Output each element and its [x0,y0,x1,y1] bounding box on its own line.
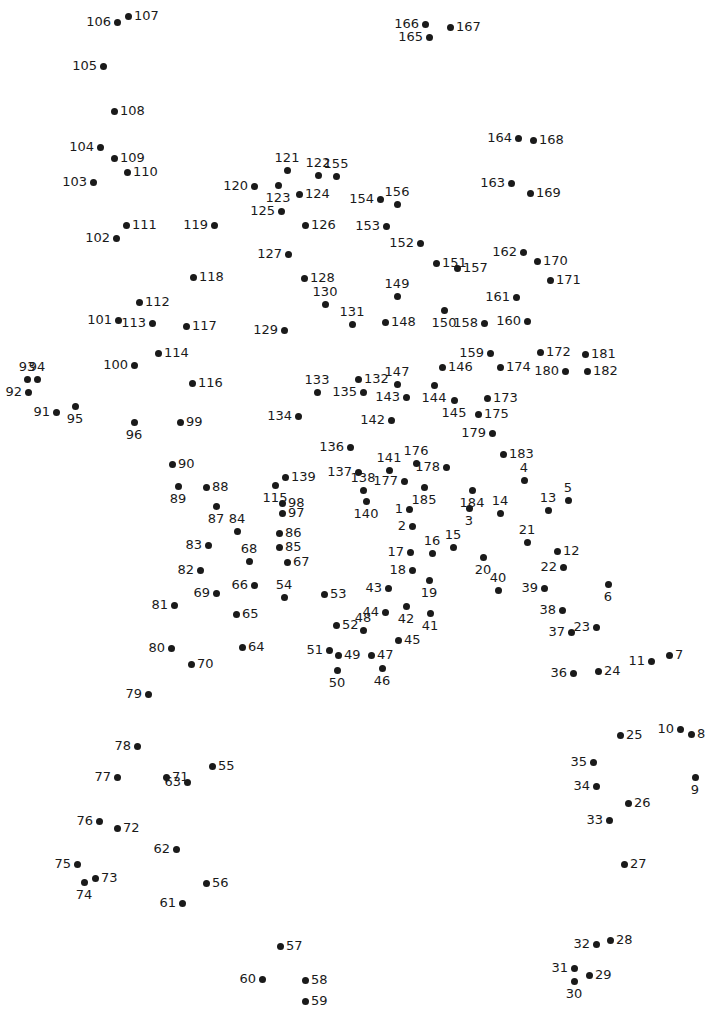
dot-marker-54 [281,594,288,601]
dot-label-111: 111 [132,218,157,231]
dot-marker-120 [251,183,258,190]
dot-marker-65 [233,611,240,618]
dot-marker-29 [586,972,593,979]
dot-marker-143 [403,394,410,401]
dot-marker-182 [584,368,591,375]
dot-label-84: 84 [229,512,246,525]
dot-marker-149 [394,293,401,300]
dot-label-166: 166 [394,17,419,30]
dot-label-26: 26 [634,796,651,809]
dot-marker-73 [92,875,99,882]
dot-label-29: 29 [595,968,612,981]
dot-marker-52 [333,622,340,629]
dot-label-174: 174 [506,360,531,373]
dot-marker-125 [278,208,285,215]
dot-marker-56 [203,880,210,887]
dot-label-3: 3 [465,514,473,527]
dot-marker-50 [334,667,341,674]
dot-label-183: 183 [509,447,534,460]
dot-marker-129 [281,327,288,334]
dot-label-100: 100 [103,358,128,371]
dot-marker-160 [524,318,531,325]
dot-label-130: 130 [313,285,338,298]
connect-the-dots-canvas: 1234567891011121314151617181920212223242… [0,0,715,1013]
dot-marker-69 [213,590,220,597]
dot-marker-20 [480,554,487,561]
dot-marker-121 [284,167,291,174]
dot-marker-49 [335,652,342,659]
dot-label-159: 159 [459,346,484,359]
dot-label-172: 172 [546,345,571,358]
dot-label-154: 154 [349,192,374,205]
dot-marker-185 [421,484,428,491]
dot-marker-74 [81,879,88,886]
dot-marker-95 [72,403,79,410]
dot-label-168: 168 [539,133,564,146]
dot-label-149: 149 [385,277,410,290]
dot-label-8: 8 [697,727,705,740]
dot-marker-99 [177,419,184,426]
dot-marker-184 [469,487,476,494]
dot-label-156: 156 [385,185,410,198]
dot-label-61: 61 [159,896,176,909]
dot-label-70: 70 [197,657,214,670]
dot-label-87: 87 [208,512,225,525]
dot-marker-76 [96,818,103,825]
dot-marker-108 [111,108,118,115]
dot-marker-123 [275,182,282,189]
dot-label-37: 37 [548,625,565,638]
dot-label-81: 81 [151,598,168,611]
dot-label-69: 69 [193,586,210,599]
dot-marker-154 [377,196,384,203]
dot-marker-158 [481,320,488,327]
dot-marker-22 [560,564,567,571]
dot-marker-68 [246,558,253,565]
dot-marker-25 [617,732,624,739]
dot-label-178: 178 [415,460,440,473]
dot-label-86: 86 [285,526,302,539]
dot-label-167: 167 [456,20,481,33]
dot-marker-130 [322,301,329,308]
dot-marker-43 [385,585,392,592]
dot-label-11: 11 [628,654,645,667]
dot-marker-92 [25,389,32,396]
dot-marker-97 [279,510,286,517]
dot-marker-33 [606,817,613,824]
dot-marker-100 [131,362,138,369]
dot-label-27: 27 [630,857,647,870]
dot-marker-62 [173,846,180,853]
dot-label-28: 28 [616,933,633,946]
dot-marker-178 [443,464,450,471]
dot-marker-8 [688,731,695,738]
dot-marker-145 [451,397,458,404]
dot-label-66: 66 [231,578,248,591]
dot-marker-170 [534,258,541,265]
dot-label-116: 116 [198,376,223,389]
dot-marker-83 [205,542,212,549]
dot-marker-171 [547,277,554,284]
dot-label-92: 92 [5,385,22,398]
dot-marker-45 [395,637,402,644]
dot-marker-13 [545,507,552,514]
dot-marker-165 [426,34,433,41]
dot-marker-21 [524,539,531,546]
dot-marker-53 [321,591,328,598]
dot-label-171: 171 [556,273,581,286]
dot-label-176: 176 [404,444,429,457]
dot-label-120: 120 [223,179,248,192]
dot-marker-37 [568,629,575,636]
dot-marker-166 [422,21,429,28]
dot-label-51: 51 [306,643,323,656]
dot-label-170: 170 [543,254,568,267]
dot-marker-96 [131,419,138,426]
dot-marker-85 [276,544,283,551]
dot-marker-157 [454,265,461,272]
dot-label-55: 55 [218,759,235,772]
dot-label-53: 53 [330,587,347,600]
dot-label-109: 109 [120,151,145,164]
dot-label-128: 128 [310,271,335,284]
dot-marker-183 [500,451,507,458]
dot-marker-119 [211,222,218,229]
dot-marker-169 [527,190,534,197]
dot-label-6: 6 [604,590,612,603]
